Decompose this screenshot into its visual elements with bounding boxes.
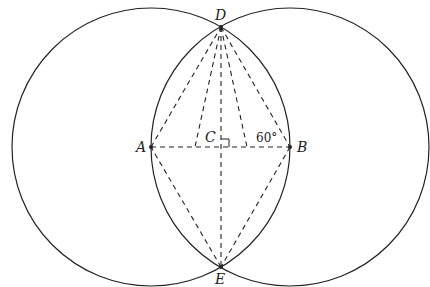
label-e: E <box>214 271 225 287</box>
point-d <box>219 25 223 29</box>
label-d: D <box>214 7 226 23</box>
label-b: B <box>296 139 307 155</box>
point-e <box>219 265 223 269</box>
right-angle-marker <box>221 139 229 147</box>
point-a <box>149 145 153 149</box>
segment-be <box>221 147 290 267</box>
geometry-diagram: D A C B E 60° <box>0 0 430 287</box>
segment-dc-inner-right <box>221 27 247 147</box>
segment-db <box>221 27 290 147</box>
point-b <box>288 145 292 149</box>
segment-ea <box>151 147 221 267</box>
label-c: C <box>205 129 216 145</box>
angle-label-60: 60° <box>256 131 277 145</box>
label-a: A <box>134 139 146 155</box>
